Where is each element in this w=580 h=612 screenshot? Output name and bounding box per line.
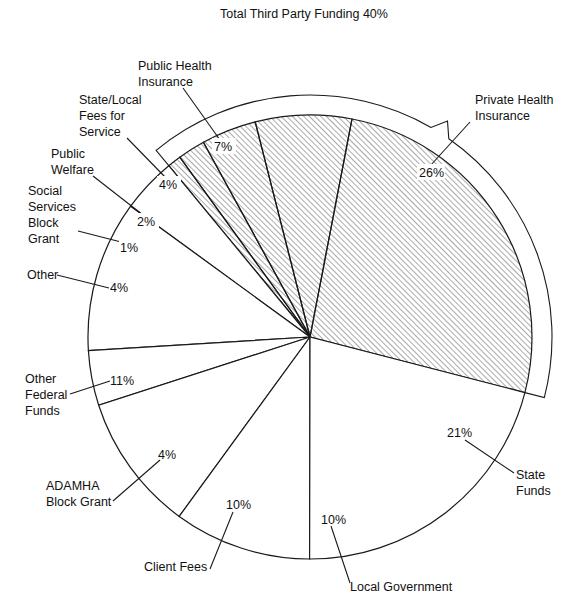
- pct-private-health: 26%: [419, 166, 444, 180]
- pct-adamha: 4%: [158, 448, 176, 462]
- pct-client-fees: 10%: [226, 498, 251, 512]
- label-other-federal-2: Federal: [25, 388, 67, 402]
- leader-line: [430, 122, 470, 166]
- funding-pie-chart: Total Third Party Funding 40% Private He…: [0, 0, 580, 612]
- label-local-government: Local Government: [350, 580, 453, 594]
- label-other-federal-1: Other: [25, 372, 56, 386]
- label-state-funds-2: Funds: [516, 484, 551, 498]
- leader-line: [93, 176, 143, 215]
- label-state-local-2: Fees for: [79, 109, 125, 123]
- label-adamha-1: ADAMHA: [46, 479, 100, 493]
- label-public-welfare-1: Public: [51, 147, 85, 161]
- label-client-fees: Client Fees: [144, 560, 207, 574]
- label-state-funds-1: State: [516, 468, 545, 482]
- label-private-health-2: Insurance: [475, 109, 530, 123]
- label-social-services-2: Services: [28, 200, 76, 214]
- pct-other-federal: 11%: [110, 374, 134, 388]
- label-public-health-1: Public Health: [138, 59, 212, 73]
- pct-other: 4%: [110, 281, 128, 295]
- pct-public-welfare: 2%: [137, 215, 155, 229]
- pie-slices: [88, 115, 532, 559]
- label-state-local-3: Service: [79, 125, 121, 139]
- pct-public-health: 7%: [214, 140, 232, 154]
- label-public-welfare-2: Welfare: [51, 163, 94, 177]
- label-private-health-1: Private Health: [475, 93, 554, 107]
- pct-state-funds: 21%: [447, 426, 472, 440]
- label-social-services-1: Social: [28, 184, 62, 198]
- pct-local-government: 10%: [321, 513, 346, 527]
- label-social-services-4: Grant: [28, 232, 60, 246]
- label-adamha-2: Block Grant: [46, 495, 112, 509]
- leader-line: [127, 138, 166, 178]
- label-social-services-3: Block: [28, 216, 59, 230]
- pct-social-services: 1%: [120, 241, 138, 255]
- label-other-federal-3: Funds: [25, 404, 60, 418]
- label-public-health-2: Insurance: [138, 75, 193, 89]
- leader-line: [183, 88, 220, 140]
- pct-state-local: 4%: [159, 178, 177, 192]
- label-other: Other: [27, 268, 58, 282]
- bracket-label: Total Third Party Funding 40%: [220, 7, 388, 21]
- label-state-local-1: State/Local: [79, 93, 142, 107]
